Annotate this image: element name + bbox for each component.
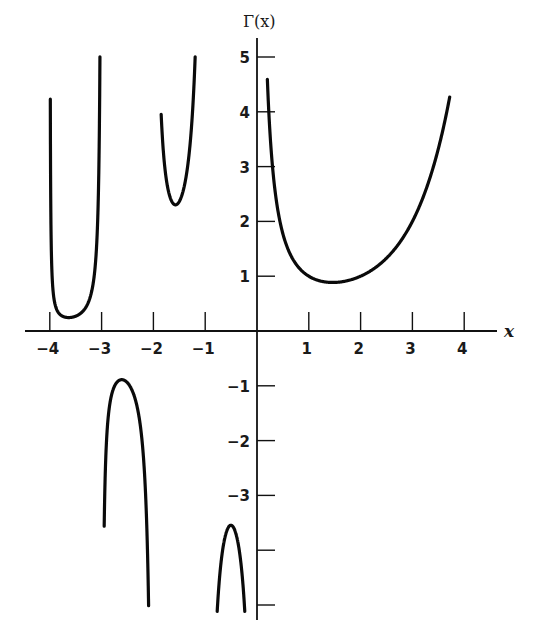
gamma-curve-segment [267,79,449,282]
x-ticks: −4−3−2−11234 [36,312,467,358]
x-tick-label: −4 [36,340,59,358]
x-tick-label: −3 [88,340,111,358]
y-tick-label: −2 [227,433,250,451]
x-tick-label: 3 [405,340,415,358]
x-tick-label: −2 [140,340,163,358]
y-axis-label: Γ(x) [243,12,276,31]
y-tick-label: −1 [227,378,250,396]
gamma-curve-segment [217,525,245,611]
axes [25,38,497,620]
gamma-curve-segment [161,57,195,205]
gamma-curve-segment [50,57,100,318]
gamma-function-chart: −4−3−2−11234 54321−1−2−3 x Γ(x) [0,0,535,636]
gamma-curve-segment [104,380,148,606]
x-tick-label: −1 [192,340,215,358]
y-tick-label: −3 [227,487,250,505]
y-tick-label: 1 [240,268,250,286]
y-ticks: 54321−1−2−3 [227,49,275,605]
x-tick-label: 4 [457,340,467,358]
x-axis-label: x [503,321,515,341]
y-tick-label: 4 [240,104,250,122]
x-tick-label: 2 [353,340,363,358]
y-tick-label: 3 [240,159,250,177]
y-tick-label: 5 [240,49,250,67]
gamma-curves [50,57,449,612]
x-tick-label: 1 [302,340,312,358]
y-tick-label: 2 [240,213,250,231]
